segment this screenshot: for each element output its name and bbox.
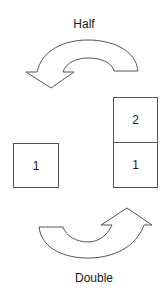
half-double-diagram: Half 1 2 1 Double (0, 0, 164, 293)
double-arrow-icon (0, 0, 164, 293)
double-label: Double (64, 271, 124, 285)
